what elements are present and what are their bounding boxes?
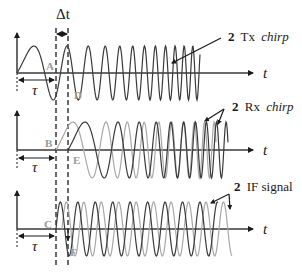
point-label-e: E [73, 154, 80, 166]
if-annotation-text: IF signal [247, 179, 293, 194]
panel-tx-chirp: t τ A D 2 Tx chirp [17, 29, 289, 101]
diagram-canvas: Δt t τ A D 2 Tx chirp [0, 0, 302, 277]
if-annotation-number: 2 [234, 179, 241, 194]
tx-annotation-arrow [172, 38, 221, 63]
if-annotation-arrow-2 [229, 194, 230, 209]
time-axis-label: t [263, 142, 268, 158]
tx-annotation-italic: chirp [261, 29, 289, 44]
tau-label: τ [32, 238, 38, 254]
fmcw-radar-diagram: Δt t τ A D 2 Tx chirp [0, 0, 302, 277]
point-label-c: C [44, 218, 52, 230]
tau-label: τ [32, 82, 38, 98]
tx-annotation: 2 Tx chirp [228, 29, 289, 44]
point-label-f: F [70, 246, 77, 258]
point-label-a: A [46, 60, 54, 72]
delta-t-label: Δt [56, 6, 71, 22]
tx-annotation-number: 2 [228, 29, 235, 44]
panel-rx-chirp: t τ B E 2 Rx chirp [17, 99, 294, 178]
tx-annotation-text: Tx [241, 29, 256, 44]
tau-label: τ [32, 159, 38, 175]
time-axis-label: t [263, 65, 268, 81]
rx-annotation-italic: chirp [266, 99, 294, 114]
time-axis-label: t [263, 221, 268, 237]
point-label-b: B [45, 137, 53, 149]
rx-annotation-text: Rx [245, 99, 261, 114]
rx-annotation-number: 2 [232, 99, 239, 114]
rx-annotation: 2 Rx chirp [232, 99, 294, 114]
if-annotation: 2 IF signal [234, 179, 293, 194]
tx-chirp-wave [17, 46, 200, 100]
if-annotation-arrow-1 [211, 194, 229, 203]
panel-if-signal: t τ C F 2 IF signal [17, 179, 293, 258]
point-label-d: D [74, 89, 82, 101]
